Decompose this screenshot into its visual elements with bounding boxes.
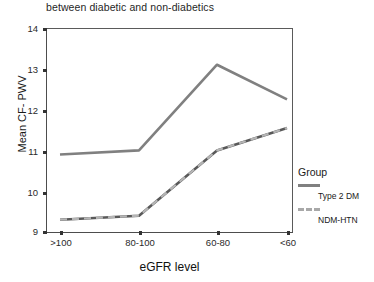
legend-item-ndm-htn[interactable]: NDM-HTN <box>298 206 374 230</box>
series-line-ndm-htn <box>60 128 287 220</box>
chart-container: between diabetic and non-diabetics 14 13… <box>0 0 374 282</box>
legend-title: Group <box>298 166 374 178</box>
legend: Group Type 2 DM NDM-HTN <box>298 166 374 230</box>
legend-item-label: NDM-HTN <box>318 215 358 225</box>
legend-item-type-2-dm[interactable]: Type 2 DM <box>298 182 374 206</box>
legend-swatch-dashed-icon <box>298 208 320 211</box>
legend-item-label: Type 2 DM <box>318 191 359 201</box>
series-line-ndm-htn-base <box>60 128 287 220</box>
legend-swatch-solid-icon <box>298 184 320 187</box>
series-line-type-2-dm <box>60 65 287 155</box>
series-layer <box>0 0 374 282</box>
